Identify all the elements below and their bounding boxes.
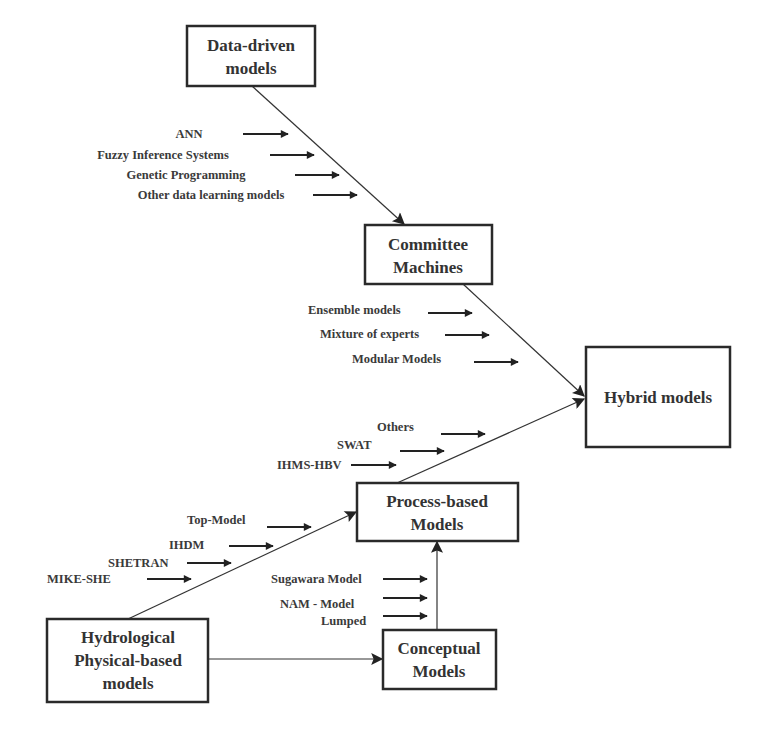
input-label-swat: SWAT <box>337 438 372 452</box>
node-label: Conceptual <box>397 639 480 658</box>
node-hybrid-models: Hybrid models <box>586 347 730 447</box>
node-hydrological-physical-based-models: Hydrological Physical-based models <box>47 619 208 702</box>
node-committee-machines: Committee Machines <box>365 225 492 284</box>
input-label-mike-she: MIKE-SHE <box>47 572 111 586</box>
node-data-driven-models: Data-driven models <box>187 26 315 86</box>
edge-committee-to-hybrid <box>463 284 584 396</box>
node-label: Hybrid models <box>604 388 713 407</box>
input-label-mixture: Mixture of experts <box>320 327 419 341</box>
input-label-modular: Modular Models <box>352 352 441 366</box>
node-label: models <box>226 59 277 78</box>
node-label: Hydrological <box>81 628 175 647</box>
input-label-ann: ANN <box>175 127 202 141</box>
node-process-based-models: Process-based Models <box>357 483 518 541</box>
process-to-hybrid-inputs: Others SWAT IHMS-HBV <box>277 420 485 472</box>
input-label-other-data: Other data learning models <box>138 188 285 202</box>
node-label: Process-based <box>386 492 488 511</box>
node-label: Physical-based <box>74 651 182 670</box>
node-label: Machines <box>393 258 463 277</box>
input-label-top-model: Top-Model <box>187 513 246 527</box>
committee-inputs: Ensemble models Mixture of experts Modul… <box>308 303 518 366</box>
data-driven-inputs: ANN Fuzzy Inference Systems Genetic Prog… <box>97 127 357 202</box>
input-label-genetic: Genetic Programming <box>127 168 247 182</box>
node-label: Committee <box>388 235 469 254</box>
node-label: Models <box>411 515 464 534</box>
input-label-fuzzy: Fuzzy Inference Systems <box>97 148 229 162</box>
node-conceptual-models: Conceptual Models <box>383 630 496 689</box>
input-label-sugawara: Sugawara Model <box>271 572 362 586</box>
input-label-ihms-hbv: IHMS-HBV <box>277 458 342 472</box>
node-label: Data-driven <box>207 36 295 55</box>
input-label-ensemble: Ensemble models <box>308 303 401 317</box>
edge-process-to-hybrid <box>397 399 584 483</box>
input-label-ihdm: IHDM <box>169 538 205 552</box>
node-label: Models <box>413 662 466 681</box>
hybrid-models-diagram: Data-driven models Committee Machines Hy… <box>0 0 766 754</box>
node-label: models <box>103 674 154 693</box>
input-label-others: Others <box>377 420 414 434</box>
conceptual-inputs: Sugawara Model NAM - Model Lumped <box>271 572 427 628</box>
input-label-nam-model: NAM - Model <box>280 597 355 611</box>
input-label-shetran: SHETRAN <box>108 556 168 570</box>
input-label-lumped: Lumped <box>321 614 366 628</box>
